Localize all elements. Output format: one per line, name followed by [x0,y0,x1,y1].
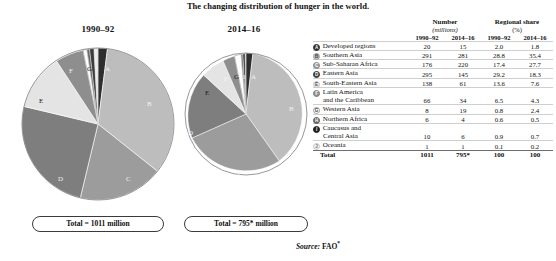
source-value: FAO [322,242,337,251]
group-header-share: Regional share (%) [481,18,553,34]
table-total-row: Total 1011 795* 100 100 [313,150,553,159]
source-label: Source: [296,242,320,251]
legend-badge-f: F [313,90,320,97]
legend-badge-h: H [313,117,320,124]
legend-badge-c: C [313,62,320,69]
row-share-1990: 0.8 [481,105,517,114]
legend-badge-e: E [313,81,320,88]
pie-slice-label-c-1990: C [126,176,131,183]
row-share-2014: 0.5 [517,114,553,123]
row-number-1990: 10 [409,123,445,141]
row-number-1990: 20 [409,41,445,50]
pie-slice-label-d-2014: D [188,130,193,137]
row-share-1990: 2.0 [481,41,517,50]
row-share-2014: 7.6 [517,78,553,87]
pie-slice-label-e-2014: E [205,90,209,97]
pie-slice-label-g-2014: G [234,74,239,81]
pie-slice-label-c-2014: C [238,171,243,178]
pie-slice-label-i-2014: I [243,74,245,81]
table-body: ADeveloped regions 20 15 2.0 1.8 BSouthe… [313,41,553,159]
row-share-1990: 13.6 [481,78,517,87]
pie-total-2014: Total = 795* million [184,216,308,232]
pie-slice-label-b-2014: B [289,106,294,113]
pie-slice-label-e-1990: E [39,98,43,105]
row-label: Developed regions [323,42,376,50]
source-note: Source: FAO* [296,240,340,251]
row-label-line2: Central Asia [313,132,409,140]
row-label: Oceania [323,141,346,149]
legend-badge-b: B [313,53,320,60]
row-share-1990: 0.9 [481,123,517,141]
row-share-2014: 18.3 [517,69,553,78]
table-row: CSub-Saharan Africa 176 220 17.4 27.7 [313,60,553,69]
row-share-2014: 0.7 [517,123,553,141]
legend-badge-d: D [313,71,320,78]
row-number-1990: 6 [409,114,445,123]
legend-badge-j: J [313,143,320,150]
year-header-number-1990: 1990–92 [409,34,445,42]
total-share-1990: 100 [481,150,517,159]
table-row: FLatin America and the Caribbean 66 34 6… [313,87,553,105]
row-region-developed-regions: ADeveloped regions [313,41,409,50]
row-share-2014: 35.4 [517,50,553,59]
year-header-share-2014: 2014–16 [517,34,553,42]
legend-badge-g: G [313,107,320,114]
row-number-2014: 6 [445,123,481,141]
row-label: Northern Africa [323,115,368,123]
pie-canvas-2014 [182,50,310,178]
row-region-latin-america: FLatin America and the Caribbean [313,87,409,105]
table-row: BSouthern Asia 291 281 28.8 35.4 [313,50,553,59]
row-region-sub-saharan-africa: CSub-Saharan Africa [313,60,409,69]
table-row: ADeveloped regions 20 15 2.0 1.8 [313,41,553,50]
group-header-number-title: Number [433,18,458,26]
pie-slices-2014 [185,53,307,175]
row-number-2014: 34 [445,87,481,105]
pie-caption-1990: 1990–92 [8,24,188,34]
row-number-1990: 8 [409,105,445,114]
row-share-2014: 27.7 [517,60,553,69]
row-number-1990: 295 [409,69,445,78]
row-number-2014: 19 [445,105,481,114]
total-number-2014: 795* [445,150,481,159]
row-number-2014: 220 [445,60,481,69]
row-number-1990: 291 [409,50,445,59]
row-share-1990: 29.2 [481,69,517,78]
pie-slice-label-a-1990: A [105,66,110,73]
row-number-2014: 1 [445,141,481,150]
pie-total-1990: Total = 1011 million [32,216,164,232]
row-share-1990: 6.5 [481,87,517,105]
pie-slice-label-f-2014: F [224,76,228,83]
group-header-share-sub: (%) [481,26,553,33]
total-share-2014: 100 [517,150,553,159]
row-label: Southern Asia [323,51,362,59]
row-number-2014: 4 [445,114,481,123]
table-row: HNorthern Africa 6 4 0.6 0.5 [313,114,553,123]
row-label: Caucasus and [323,124,361,132]
pie-slice-label-g-1990: G [87,66,92,73]
row-number-2014: 281 [445,50,481,59]
pie-slice-label-i-1990: I [96,66,98,73]
pie-panel-1990: 1990–92 H [8,24,188,234]
figure-root: The changing distribution of hunger in t… [0,0,556,261]
table-head: Number (millions) Regional share (%) 199… [313,18,553,41]
pie-slice-label-d-1990: D [58,176,63,183]
row-share-2014: 0.2 [517,141,553,150]
pie-slice-label-a-2014: A [251,74,256,81]
row-region-northern-africa: HNorthern Africa [313,114,409,123]
row-region-western-asia: GWestern Asia [313,105,409,114]
year-header-spacer [313,34,409,42]
source-marker: * [337,240,340,246]
total-number-1990: 1011 [409,150,445,159]
row-share-2014: 1.8 [517,41,553,50]
year-header-number-2014: 2014–16 [445,34,481,42]
row-share-1990: 17.4 [481,60,517,69]
row-number-2014: 15 [445,41,481,50]
row-label: Western Asia [323,105,360,113]
year-header-share-1990: 1990–92 [481,34,517,42]
pie-panel-2014: 2014–16 H B [172,24,316,234]
row-label: Eastern Asia [323,69,358,77]
group-header-number-sub: (millions) [409,26,481,33]
group-header-spacer [313,18,409,34]
group-header-share-title: Regional share [495,18,539,26]
row-number-1990: 66 [409,87,445,105]
